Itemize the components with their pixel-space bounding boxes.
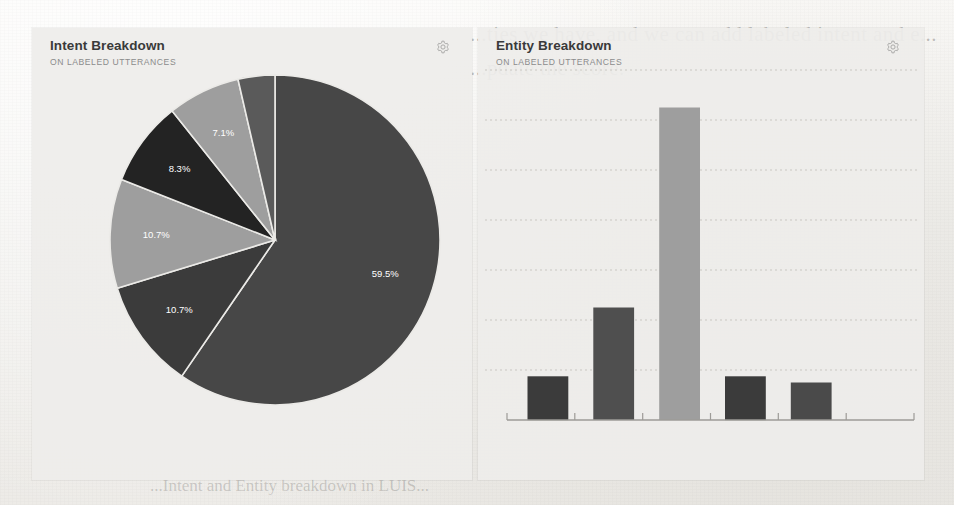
intent-breakdown-panel: Intent Breakdown ON LABELED UTTERANCES 5… (32, 28, 472, 480)
pie-slice-label: 59.5% (372, 268, 399, 279)
entity-bar-chart (478, 28, 924, 480)
bar[interactable] (593, 308, 634, 421)
bar-chart-svg (478, 28, 924, 480)
pie-chart-svg: 59.5%10.7%10.7%8.3%7.1% (32, 28, 472, 480)
intent-pie-chart: 59.5%10.7%10.7%8.3%7.1% (32, 28, 472, 480)
bar[interactable] (791, 383, 832, 421)
entity-breakdown-panel: Entity Breakdown ON LABELED UTTERANCES (478, 28, 924, 480)
bar[interactable] (725, 376, 766, 420)
pie-slice-label: 10.7% (143, 229, 170, 240)
pie-slice-label: 10.7% (166, 304, 193, 315)
pie-slice-label: 8.3% (169, 163, 191, 174)
bar[interactable] (659, 108, 700, 421)
pie-slice-label: 7.1% (213, 127, 235, 138)
bar[interactable] (528, 376, 569, 420)
